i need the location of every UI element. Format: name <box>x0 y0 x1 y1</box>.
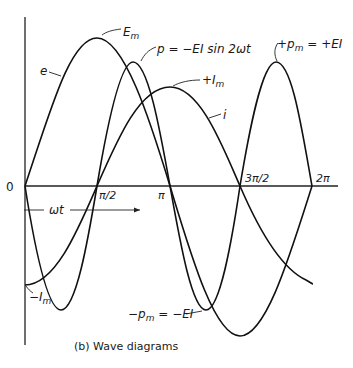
origin-label: 0 <box>6 180 14 194</box>
tick-2pi: 2π <box>316 172 330 185</box>
arrow-i <box>209 114 221 118</box>
time-axis-label: ωt <box>49 203 65 217</box>
label-Em: Em <box>123 25 140 41</box>
label-plus-pm: +pm = +EI <box>277 37 343 53</box>
tick-pi: π <box>158 189 165 202</box>
tick-3pi-half: 3π/2 <box>245 172 269 185</box>
arrow-plus-Im <box>173 80 200 86</box>
curve-e <box>25 38 312 336</box>
wave-diagram: 0 π/2 π 3π/2 2π ωt Em e p = −EI sin 2ωt … <box>0 0 353 368</box>
figure-caption: (b) Wave diagrams <box>74 340 178 353</box>
arrow-p <box>141 47 156 61</box>
label-i: i <box>223 108 227 122</box>
arrow-e <box>49 72 61 76</box>
arrow-head-icon <box>134 208 140 213</box>
label-p-equation: p = −EI sin 2ωt <box>156 42 252 56</box>
label-plus-Im: +Im <box>202 73 225 89</box>
label-e: e <box>40 64 47 78</box>
label-minus-pm: −pm = −EI <box>128 307 194 323</box>
arrow-Em <box>102 29 121 35</box>
tick-pi-half: π/2 <box>99 189 116 202</box>
